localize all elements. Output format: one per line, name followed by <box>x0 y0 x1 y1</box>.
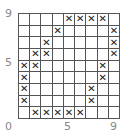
grid-cell-empty[interactable] <box>98 96 109 108</box>
grid-cell-empty[interactable] <box>30 84 41 96</box>
grid-cell-empty[interactable] <box>86 61 97 73</box>
grid-cell-empty[interactable] <box>75 96 86 108</box>
grid-cell-empty[interactable] <box>41 26 52 38</box>
grid-cell-empty[interactable] <box>98 26 109 38</box>
grid-cell-empty[interactable] <box>109 61 120 73</box>
grid-cell-empty[interactable] <box>30 96 41 108</box>
y-axis-label-5: 5 <box>5 57 12 68</box>
grid-cell-empty[interactable] <box>64 61 75 73</box>
grid-cell-marked[interactable]: ✕ <box>86 96 97 108</box>
grid-cell-empty[interactable] <box>109 96 120 108</box>
x-mark-icon: ✕ <box>42 49 50 59</box>
grid-cell-empty[interactable] <box>41 84 52 96</box>
grid-cell-empty[interactable] <box>30 72 41 84</box>
grid-cell-marked[interactable]: ✕ <box>19 61 30 73</box>
grid-cell-empty[interactable] <box>86 107 97 119</box>
x-mark-icon: ✕ <box>42 38 50 48</box>
grid-cell-empty[interactable] <box>86 49 97 61</box>
grid-cell-marked[interactable]: ✕ <box>30 107 41 119</box>
grid-cell-empty[interactable] <box>98 84 109 96</box>
grid-cell-marked[interactable]: ✕ <box>53 107 64 119</box>
grid-cell-empty[interactable] <box>19 107 30 119</box>
grid-cell-empty[interactable] <box>53 37 64 49</box>
grid-cell-marked[interactable]: ✕ <box>64 107 75 119</box>
grid-cell-empty[interactable] <box>19 37 30 49</box>
grid-cell-marked[interactable]: ✕ <box>109 26 120 38</box>
grid-cell-empty[interactable] <box>64 49 75 61</box>
grid-cell-empty[interactable] <box>109 72 120 84</box>
grid-cell-empty[interactable] <box>30 14 41 26</box>
grid-cell-empty[interactable] <box>64 26 75 38</box>
grid-cell-empty[interactable] <box>75 72 86 84</box>
grid-cell-empty[interactable] <box>41 96 52 108</box>
grid-cell-empty[interactable] <box>75 26 86 38</box>
x-mark-icon: ✕ <box>98 73 106 83</box>
grid-cell-empty[interactable] <box>98 107 109 119</box>
grid-cell-empty[interactable] <box>64 37 75 49</box>
grid-cell-empty[interactable] <box>75 49 86 61</box>
grid-cell-empty[interactable] <box>64 84 75 96</box>
grid-cell-marked[interactable]: ✕ <box>19 96 30 108</box>
x-mark-icon: ✕ <box>20 73 28 83</box>
grid-cell-empty[interactable] <box>64 96 75 108</box>
x-mark-icon: ✕ <box>54 108 62 118</box>
grid-cell-empty[interactable] <box>53 14 64 26</box>
grid-cell-empty[interactable] <box>53 49 64 61</box>
grid-cell-marked[interactable]: ✕ <box>19 84 30 96</box>
grid-cell-marked[interactable]: ✕ <box>98 72 109 84</box>
grid-cell-marked[interactable]: ✕ <box>30 49 41 61</box>
x-mark-icon: ✕ <box>65 108 73 118</box>
x-mark-icon: ✕ <box>20 96 28 106</box>
grid-cell-empty[interactable] <box>30 37 41 49</box>
x-mark-icon: ✕ <box>87 96 95 106</box>
grid-cell-empty[interactable] <box>109 14 120 26</box>
grid-cell-empty[interactable] <box>53 84 64 96</box>
x-mark-icon: ✕ <box>54 26 62 36</box>
grid-cell-marked[interactable]: ✕ <box>86 84 97 96</box>
grid-cell-empty[interactable] <box>75 37 86 49</box>
grid-cell-empty[interactable] <box>41 72 52 84</box>
grid-cell-marked[interactable]: ✕ <box>98 61 109 73</box>
x-mark-icon: ✕ <box>110 38 118 48</box>
grid-cell-empty[interactable] <box>98 37 109 49</box>
x-mark-icon: ✕ <box>110 26 118 36</box>
grid-cell-empty[interactable] <box>41 61 52 73</box>
x-mark-icon: ✕ <box>87 14 95 24</box>
grid-cell-marked[interactable]: ✕ <box>98 14 109 26</box>
grid-cell-empty[interactable] <box>86 26 97 38</box>
x-mark-icon: ✕ <box>98 61 106 71</box>
grid-cell-marked[interactable]: ✕ <box>109 49 120 61</box>
grid-cell-empty[interactable] <box>53 72 64 84</box>
grid-cell-empty[interactable] <box>30 26 41 38</box>
grid-cell-empty[interactable] <box>86 37 97 49</box>
grid-cell-empty[interactable] <box>75 61 86 73</box>
grid-cell-marked[interactable]: ✕ <box>30 61 41 73</box>
grid-cell-empty[interactable] <box>41 14 52 26</box>
grid-cell-marked[interactable]: ✕ <box>64 14 75 26</box>
grid-cell-empty[interactable] <box>109 84 120 96</box>
grid-cell-empty[interactable] <box>19 26 30 38</box>
grid-cell-empty[interactable] <box>19 14 30 26</box>
grid-cell-marked[interactable]: ✕ <box>41 49 52 61</box>
grid-cell-marked[interactable]: ✕ <box>53 26 64 38</box>
grid-cell-empty[interactable] <box>53 61 64 73</box>
grid-cell-marked[interactable]: ✕ <box>41 107 52 119</box>
x-axis-label-9: 9 <box>110 121 117 132</box>
grid-cell-empty[interactable] <box>53 96 64 108</box>
grid-cell-empty[interactable] <box>98 49 109 61</box>
x-mark-icon: ✕ <box>42 108 50 118</box>
grid-cell-marked[interactable]: ✕ <box>75 14 86 26</box>
grid-cell-empty[interactable] <box>86 72 97 84</box>
grid-cell-empty[interactable] <box>75 84 86 96</box>
grid-cell-empty[interactable] <box>64 72 75 84</box>
x-mark-icon: ✕ <box>87 84 95 94</box>
grid-cell-marked[interactable]: ✕ <box>75 107 86 119</box>
grid-cell-empty[interactable] <box>19 49 30 61</box>
grid-cell-empty[interactable] <box>109 107 120 119</box>
grid-cell-marked[interactable]: ✕ <box>41 37 52 49</box>
x-mark-icon: ✕ <box>76 108 84 118</box>
grid-cell-marked[interactable]: ✕ <box>109 37 120 49</box>
grid-cell-marked[interactable]: ✕ <box>19 72 30 84</box>
x-mark-icon: ✕ <box>31 61 39 71</box>
grid-cell-marked[interactable]: ✕ <box>86 14 97 26</box>
